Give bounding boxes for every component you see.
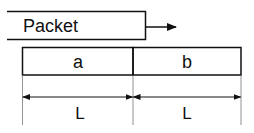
packet-box: Packet bbox=[7, 12, 146, 40]
field-label-b: b bbox=[182, 52, 192, 72]
packet-diagram: Packet a b L L bbox=[0, 0, 254, 133]
dimension-lines: L L bbox=[23, 97, 241, 123]
field-row: a b bbox=[23, 48, 242, 76]
field-label-a: a bbox=[73, 52, 84, 72]
extension-lines bbox=[23, 75, 242, 125]
dimension-label-b: L bbox=[182, 104, 191, 123]
dimension-label-a: L bbox=[75, 104, 84, 123]
packet-label: Packet bbox=[23, 16, 78, 36]
